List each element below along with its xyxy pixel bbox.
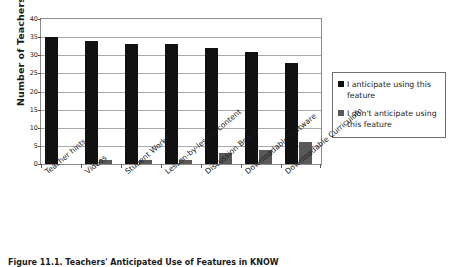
y-axis-tick-label: 40	[30, 16, 38, 23]
bar	[165, 44, 178, 164]
y-axis-tick-label: 20	[30, 88, 38, 95]
legend-item-label: I anticipate using this feature	[347, 80, 440, 101]
bar	[45, 37, 58, 164]
x-axis-tick-mark	[161, 164, 162, 168]
x-axis-tick-mark	[320, 164, 321, 168]
y-axis-tick-mark	[38, 19, 41, 20]
y-axis-tick-mark	[38, 37, 41, 38]
y-axis-tick-mark	[38, 73, 41, 74]
y-axis-title: Number of Teachers	[15, 0, 26, 112]
x-axis-tick-mark	[281, 164, 282, 168]
bar	[245, 52, 258, 164]
x-axis-tick-mark	[201, 164, 202, 168]
legend-item: I anticipate using this feature	[338, 80, 440, 101]
x-axis-tick-mark	[81, 164, 82, 168]
x-axis-tick-mark	[241, 164, 242, 168]
black-square-marker-icon	[338, 81, 344, 87]
bar	[125, 44, 138, 164]
y-axis-tick-label: 30	[30, 52, 38, 59]
y-axis-tick-mark	[38, 92, 41, 93]
bar	[205, 48, 218, 164]
y-axis-tick-mark	[38, 128, 41, 129]
y-axis-tick-mark	[38, 146, 41, 147]
y-axis-tick-mark	[38, 55, 41, 56]
figure-caption: Figure 11.1. Teachers' Anticipated Use o…	[8, 258, 279, 267]
y-axis-tick-label: 10	[30, 125, 38, 132]
gray-square-marker-icon	[338, 110, 344, 116]
x-axis-tick-mark	[121, 164, 122, 168]
y-axis-tick-mark	[38, 110, 41, 111]
y-axis-tick-label: 15	[30, 106, 38, 113]
chart-legend: I anticipate using this feature I don't …	[332, 72, 446, 138]
bar	[285, 63, 298, 165]
y-axis-tick-label: 35	[30, 34, 38, 41]
y-axis-tick-label: 25	[30, 70, 38, 77]
x-axis-tick-mark	[41, 164, 42, 168]
bar	[85, 41, 98, 164]
